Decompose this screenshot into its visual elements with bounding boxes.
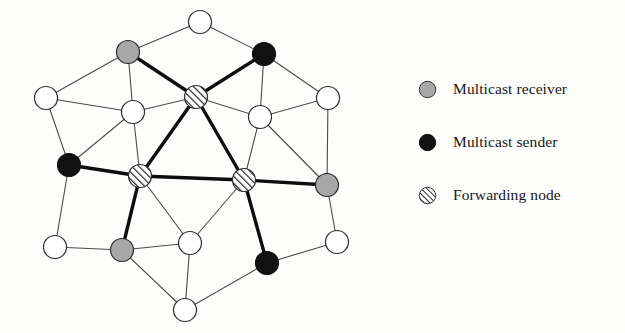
figure-root: Network nodeMulticast receiverMulticast …: [0, 0, 625, 333]
graph-node-plain[interactable]: Network node: [189, 11, 212, 34]
topology-edge: [122, 250, 185, 310]
legend-label-receiver: Multicast receiver: [453, 80, 567, 98]
forwarding-node-marker-icon: [418, 186, 437, 205]
multicast-receiver-marker-icon: [418, 80, 437, 99]
graph-node-plain[interactable]: Network node: [44, 236, 67, 259]
legend: Multicast receiver Multicast sender Forw…: [418, 78, 618, 206]
legend-label-forwarding: Forwarding node: [453, 186, 561, 204]
graph-node-receiver[interactable]: Multicast receiver: [316, 174, 339, 197]
graph-node-sender[interactable]: Multicast sender: [256, 252, 279, 275]
topology-edge: [69, 112, 133, 165]
legend-item-receiver: Multicast receiver: [418, 78, 618, 100]
network-topology-graph: Network nodeMulticast receiverMulticast …: [0, 0, 390, 333]
legend-label-sender: Multicast sender: [453, 133, 557, 151]
graph-node-sender[interactable]: Multicast sender: [253, 43, 276, 66]
graph-node-receiver[interactable]: Multicast receiver: [111, 239, 134, 262]
topology-edge: [55, 165, 69, 247]
multicast-sender-marker-icon: [418, 133, 437, 152]
topology-edge: [46, 98, 133, 112]
graph-node-plain[interactable]: Network node: [179, 232, 202, 255]
topology-edge: [46, 52, 128, 98]
multicast-tree-edge: [244, 180, 327, 185]
topology-edge-layer: [46, 22, 337, 310]
graph-node-plain[interactable]: Network node: [35, 87, 58, 110]
graph-node-forwarding[interactable]: Forwarding node: [233, 169, 256, 192]
tree-edge-layer: [69, 52, 327, 263]
topology-edge: [190, 180, 244, 243]
multicast-tree-edge: [140, 176, 244, 180]
multicast-tree-edge: [128, 52, 196, 97]
graph-node-receiver[interactable]: Multicast receiver: [117, 41, 140, 64]
graph-node-plain[interactable]: Network node: [249, 106, 272, 129]
topology-edge: [140, 176, 190, 243]
graph-node-sender[interactable]: Multicast sender: [58, 154, 81, 177]
multicast-tree-edge: [244, 180, 267, 263]
topology-edge: [185, 263, 267, 310]
graph-node-forwarding[interactable]: Forwarding node: [185, 86, 208, 109]
graph-node-plain[interactable]: Network node: [122, 101, 145, 124]
graph-node-plain[interactable]: Network node: [317, 87, 340, 110]
graph-node-plain[interactable]: Network node: [326, 231, 349, 254]
graph-node-plain[interactable]: Network node: [174, 299, 197, 322]
topology-edge: [327, 98, 328, 185]
topology-edge: [260, 117, 327, 185]
graph-node-forwarding[interactable]: Forwarding node: [129, 165, 152, 188]
legend-item-forwarding: Forwarding node: [418, 184, 618, 206]
legend-item-sender: Multicast sender: [418, 131, 618, 153]
